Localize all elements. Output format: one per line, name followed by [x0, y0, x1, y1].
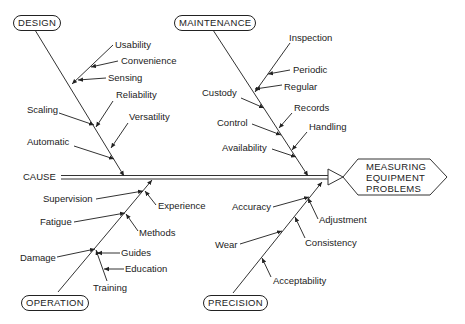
category-operation: OPERATION [21, 295, 89, 311]
cause-adjustment: Adjustment [319, 215, 367, 225]
category-precision: PRECISION [203, 295, 268, 311]
cause-custody: Custody [202, 88, 237, 98]
spine-label: CAUSE [23, 172, 56, 182]
cause-reliability: Reliability [116, 90, 157, 100]
cause-fatigue: Fatigue [40, 217, 72, 227]
cause-supervision: Supervision [43, 194, 93, 204]
cause-experience: Experience [158, 201, 206, 211]
cause-damage: Damage [20, 253, 56, 263]
cause-control: Control [217, 118, 248, 128]
cause-periodic: Periodic [293, 65, 327, 75]
cause-wear: Wear [215, 240, 238, 250]
cause-handling: Handling [309, 122, 347, 132]
cause-education: Education [125, 264, 167, 274]
category-design: DESIGN [13, 15, 61, 31]
effect-line-2: EQUIPMENT [366, 172, 426, 183]
cause-scaling: Scaling [27, 105, 58, 115]
cause-versatility: Versatility [129, 112, 170, 122]
effect-line-1: MEASURING [366, 161, 426, 172]
cause-inspection: Inspection [289, 33, 332, 43]
cause-records: Records [294, 103, 329, 113]
cause-methods: Methods [139, 228, 175, 238]
category-maintenance: MAINTENANCE [174, 15, 256, 31]
cause-sensing: Sensing [108, 73, 142, 83]
cause-training: Training [93, 283, 127, 293]
cause-availability: Availability [222, 143, 267, 153]
cause-acceptability: Acceptability [273, 276, 326, 286]
effect-label: MEASURING EQUIPMENT PROBLEMS [366, 161, 426, 194]
cause-guides: Guides [121, 248, 151, 258]
cause-regular: Regular [284, 82, 317, 92]
cause-consistency: Consistency [305, 238, 357, 248]
effect-line-3: PROBLEMS [366, 183, 426, 194]
cause-convenience: Convenience [121, 56, 176, 66]
cause-automatic: Automatic [27, 137, 69, 147]
cause-accuracy: Accuracy [232, 202, 271, 212]
cause-usability: Usability [115, 40, 151, 50]
